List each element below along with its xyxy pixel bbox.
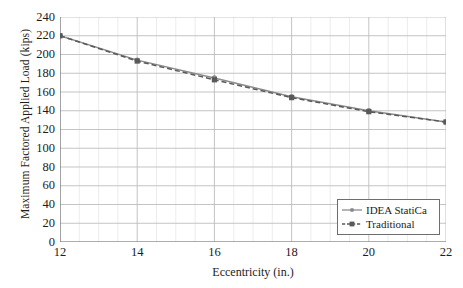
legend-label: Traditional [366, 218, 415, 230]
x-axis-title: Eccentricity (in.) [60, 265, 446, 280]
y-tick-label: 200 [22, 48, 55, 61]
x-tick-label: 22 [426, 246, 463, 259]
legend-swatch-line-icon [341, 204, 363, 216]
legend-swatch-dashed-icon [341, 218, 363, 230]
y-tick-label: 180 [22, 67, 55, 80]
legend-item-idea-statica: IDEA StatiCa [341, 203, 435, 217]
y-tick-label: 240 [22, 11, 55, 24]
chart-figure: Maximum Factored Applied Load (kips) 020… [0, 0, 463, 288]
legend-label: IDEA StatiCa [366, 204, 427, 216]
y-tick-label: 160 [22, 86, 55, 99]
y-tick-label: 80 [22, 161, 55, 174]
x-tick-label: 16 [194, 246, 234, 259]
x-tick-label: 18 [272, 246, 312, 259]
y-tick-label: 60 [22, 179, 55, 192]
x-tick-label: 20 [349, 246, 389, 259]
x-tick-label: 14 [117, 246, 157, 259]
y-tick-label: 140 [22, 104, 55, 117]
y-tick-label: 100 [22, 142, 55, 155]
y-tick-label: 120 [22, 123, 55, 136]
y-tick-label: 40 [22, 198, 55, 211]
y-tick-label: 20 [22, 217, 55, 230]
x-tick-label: 12 [40, 246, 80, 259]
legend-item-traditional: Traditional [341, 217, 435, 231]
y-tick-label: 220 [22, 29, 55, 42]
chart-legend: IDEA StatiCa Traditional [337, 199, 440, 235]
